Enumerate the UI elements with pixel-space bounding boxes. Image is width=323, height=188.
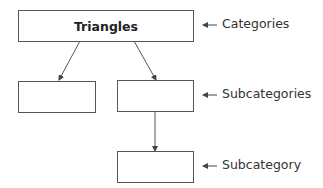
level-label-subcategories: Subcategories — [222, 88, 311, 101]
node-label-triangles: Triangles — [74, 19, 138, 34]
node-subcategory-left — [18, 81, 96, 113]
level-label-categories: Categories — [222, 18, 289, 31]
edge-root-to-left — [59, 41, 80, 80]
edge-root-to-right — [134, 41, 156, 80]
node-subcategory-child — [117, 151, 194, 183]
node-subcategory-right — [117, 80, 194, 112]
level-label-subcategory: Subcategory — [222, 159, 301, 172]
node-triangles: Triangles — [18, 10, 194, 42]
